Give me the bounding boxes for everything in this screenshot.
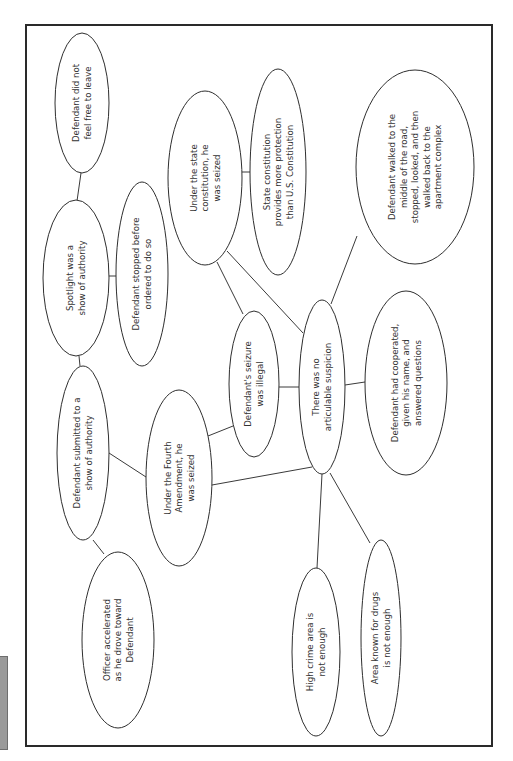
node-label-line: Amendment, he: [174, 443, 184, 512]
concept-node: There was noarticulable suspicion: [299, 300, 345, 474]
node-label-line: Defendant walked to the: [387, 114, 397, 220]
node-label-line: Area known for drugs: [370, 591, 380, 684]
concept-node: Defendant did notfeel free to leave: [55, 33, 109, 173]
node-label-line: constitution, he: [200, 144, 210, 211]
node-label: Defendant did notfeel free to leave: [71, 63, 93, 142]
node-label: State constitutionprovides more protecti…: [262, 118, 295, 226]
concept-node: Under the stateconstitution, hewas seize…: [168, 91, 242, 265]
node-label-line: was seized: [212, 155, 222, 202]
node-label-line: show of authority: [77, 240, 87, 315]
node-label-line: provides more protection: [273, 118, 283, 226]
node-label-line: Defendant had cooperated,: [390, 324, 400, 442]
concept-node: Area known for drugsis not enough: [361, 540, 401, 736]
concept-node: Defendant walked to themiddle of the roa…: [356, 70, 474, 264]
node-label-line: than U.S. Constitution: [285, 125, 295, 219]
node-label-line: was illegal: [255, 361, 265, 406]
node-label: Defendant walked to themiddle of the roa…: [387, 111, 443, 223]
connector-n10-n11: [109, 453, 146, 477]
node-label-line: High crime area is: [305, 612, 315, 691]
connector-n11-n7: [208, 426, 233, 436]
node-label-line: given his name, and: [401, 339, 411, 426]
concept-node: Spotlight was ashow of authority: [43, 200, 109, 356]
node-label-line: is not enough: [382, 609, 392, 668]
node-label-line: Spotlight was a: [65, 245, 75, 311]
node-label-line: show of authority: [84, 415, 94, 490]
concept-node: Defendant stopped beforeordered to do so: [116, 182, 168, 366]
connector-n8-n13: [317, 474, 322, 568]
node-label-line: Officer accelerated: [102, 599, 112, 681]
node-label-line: apartment complex: [433, 125, 443, 210]
node-label-line: feel free to leave: [83, 66, 93, 139]
connector-n6-n8: [331, 236, 357, 304]
node-label-line: middle of the road,: [399, 126, 409, 208]
connector-n10-n12: [93, 540, 104, 554]
node-label-line: State constitution: [262, 134, 272, 210]
node-label-line: There was no: [311, 358, 321, 417]
node-label-line: Defendant did not: [71, 63, 81, 142]
node-label-line: articulable suspicion: [323, 343, 333, 431]
concept-node: Defendant had cooperated,given his name,…: [365, 291, 447, 475]
concept-node: High crime area isnot enough: [292, 568, 340, 736]
node-label-line: Under the state: [189, 144, 199, 211]
node-label-line: Under the Fourth: [163, 441, 173, 514]
concept-node: Defendant's seizurewas illegal: [229, 311, 279, 457]
node-label: Spotlight was ashow of authority: [65, 240, 87, 315]
connector-n4-n7: [217, 262, 243, 314]
connector-n1-n2: [77, 173, 81, 201]
node-label-line: Defendant: [125, 617, 135, 663]
node-label-line: Defendant stopped before: [131, 217, 141, 330]
node-label-line: stopped, looked, and then: [410, 111, 420, 223]
node-label-line: not enough: [317, 627, 327, 676]
node-label-line: Defendant submitted to a: [72, 398, 82, 509]
connector-n2-n10: [79, 356, 80, 366]
concept-node: State constitutionprovides more protecti…: [250, 69, 306, 275]
concept-node: Under the FourthAmendment, hewas seized: [146, 390, 212, 566]
concept-node: Officer acceleratedas he drove towardDef…: [82, 552, 154, 728]
concept-node: Defendant submitted to ashow of authorit…: [57, 366, 109, 540]
node-label: Defendant had cooperated,given his name,…: [390, 324, 423, 442]
node-label-line: walked back to the: [422, 126, 432, 207]
connector-n11-n8: [212, 467, 312, 485]
concept-map: Defendant did notfeel free to leaveSpotl…: [0, 0, 513, 761]
node-label-line: ordered to do so: [143, 239, 153, 310]
concept-nodes: Defendant did notfeel free to leaveSpotl…: [43, 33, 474, 736]
connector-n8-n9: [345, 382, 365, 385]
node-label-line: answered questions: [413, 340, 423, 426]
node-label-line: as he drove toward: [113, 599, 123, 682]
node-label-line: Defendant's seizure: [243, 341, 253, 427]
node-label-line: was seized: [186, 455, 196, 502]
diagram-page: Defendant did notfeel free to leaveSpotl…: [0, 0, 513, 761]
connector-n8-n14: [330, 473, 370, 543]
